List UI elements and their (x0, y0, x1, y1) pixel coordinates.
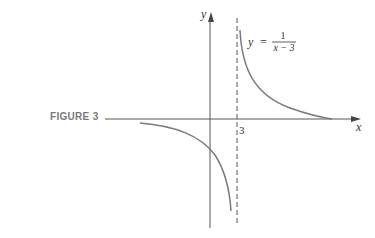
y-axis: y (200, 7, 214, 228)
x-axis: x (105, 116, 362, 134)
x-axis-label: x (355, 120, 362, 134)
svg-text:y: y (247, 35, 254, 49)
svg-text:=: = (260, 35, 267, 49)
y-axis-label: y (200, 7, 207, 21)
y-axis-arrow-icon (208, 12, 214, 22)
tick-label-3: 3 (239, 124, 245, 136)
svg-text:1: 1 (281, 30, 286, 41)
graph: x y 3 y = 1 x − 3 (0, 0, 375, 238)
curve-left-branch (140, 123, 231, 211)
equation-label: y = 1 x − 3 (247, 30, 296, 53)
svg-text:x − 3: x − 3 (272, 42, 294, 53)
